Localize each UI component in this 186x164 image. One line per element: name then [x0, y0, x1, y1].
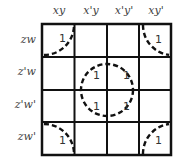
cell-r3c0: 1: [59, 135, 66, 147]
cell-r1c2: 1: [123, 70, 130, 82]
cell-r0c3: 1: [155, 34, 162, 46]
cell-r2c2: 1: [123, 101, 130, 113]
cell-r0c0: 1: [59, 33, 66, 45]
cell-r2c1: 1: [93, 101, 100, 113]
cell-r1c1: 1: [93, 70, 100, 82]
cell-r3c3: 1: [155, 135, 162, 147]
